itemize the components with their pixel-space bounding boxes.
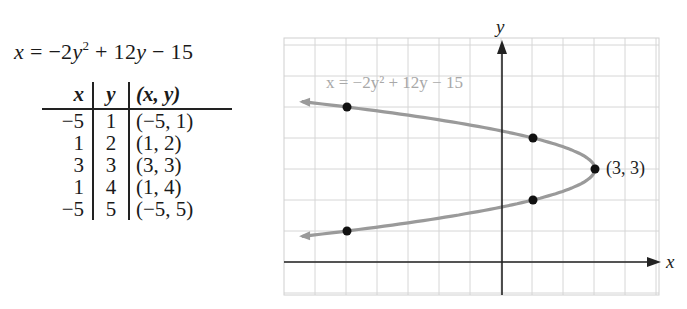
y-axis-label: y — [494, 16, 505, 37]
data-point — [529, 196, 538, 205]
data-point — [591, 165, 600, 174]
data-point — [343, 227, 352, 236]
x-axis-label: x — [665, 251, 675, 272]
curve-equation-label: x = −2y² + 12y − 15 — [326, 73, 463, 92]
vertex-label: (3, 3) — [606, 158, 645, 179]
curve-arrow-lower-icon — [299, 231, 310, 240]
parabola-graph: x y x = −2y² + 12y − 15 (3, 3) — [0, 0, 687, 309]
y-axis-arrow-icon — [497, 40, 507, 54]
data-point — [343, 103, 352, 112]
data-point — [529, 134, 538, 143]
curve-arrow-upper-icon — [299, 98, 310, 107]
